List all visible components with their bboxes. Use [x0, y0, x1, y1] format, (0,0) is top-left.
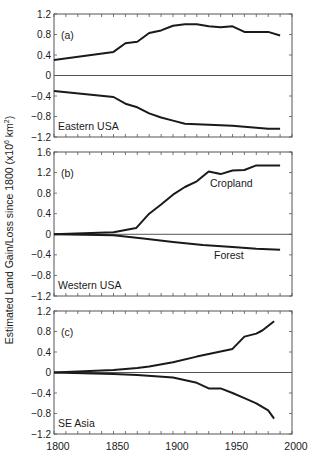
series-cropland-line: [54, 165, 280, 234]
region-label: Western USA: [58, 279, 121, 291]
y-tick-label: 0.4: [37, 208, 51, 219]
y-tick-label: −0.4: [31, 249, 51, 260]
panel-c: 1.20.80.40−0.4−0.8−1.2(c)SE Asia: [31, 306, 292, 440]
x-tick-label: 2000: [284, 440, 308, 452]
plot-frame: [54, 152, 292, 296]
y-tick-label: 0.8: [37, 326, 51, 337]
y-tick-label: 0.4: [37, 347, 51, 358]
series-forest-line: [54, 234, 280, 249]
y-tick-label: 1.6: [37, 147, 51, 158]
y-tick-label: −0.4: [31, 388, 51, 399]
x-tick-label: 1950: [225, 440, 249, 452]
y-tick-label: 0: [45, 229, 51, 240]
region-label: SE Asia: [58, 417, 95, 429]
panel-label: (b): [61, 167, 74, 179]
y-tick-label: 1.2: [37, 167, 51, 178]
cropland-annotation: Cropland: [210, 177, 253, 189]
y-tick-label: −0.4: [31, 91, 51, 102]
panels: 1.20.80.40−0.4−0.8−1.2(a)Eastern USA1.61…: [31, 9, 292, 440]
series-forest-line: [54, 373, 274, 419]
series-cropland-line: [54, 321, 274, 372]
y-tick-label: 0.8: [37, 188, 51, 199]
y-tick-label: −1.2: [31, 132, 51, 143]
forest-annotation: Forest: [214, 249, 244, 261]
x-tick-label: 1850: [106, 440, 130, 452]
panel-a: 1.20.80.40−0.4−0.8−1.2(a)Eastern USA: [31, 9, 292, 143]
y-tick-label: 1.2: [37, 306, 51, 317]
panel-label: (a): [61, 29, 74, 41]
y-tick-label: 0: [45, 70, 51, 81]
x-axis-tick-labels: 18001850190019502000: [46, 440, 308, 452]
y-tick-label: −1.2: [31, 291, 51, 302]
region-label: Eastern USA: [58, 120, 119, 132]
y-tick-label: −0.8: [31, 408, 51, 419]
y-tick-label: −0.8: [31, 270, 51, 281]
y-tick-label: 0: [45, 367, 51, 378]
land-change-figure: 1.20.80.40−0.4−0.8−1.2(a)Eastern USA1.61…: [0, 0, 313, 459]
x-tick-label: 1800: [46, 440, 70, 452]
y-tick-label: −0.8: [31, 111, 51, 122]
y-tick-label: 0.4: [37, 50, 51, 61]
y-tick-label: −1.2: [31, 429, 51, 440]
panel-label: (c): [61, 326, 73, 338]
x-tick-label: 1900: [165, 440, 189, 452]
chart-svg: 1.20.80.40−0.4−0.8−1.2(a)Eastern USA1.61…: [0, 0, 313, 459]
y-tick-label: 0.8: [37, 29, 51, 40]
y-tick-label: 1.2: [37, 9, 51, 20]
panel-b: 1.61.20.80.40−0.4−0.8−1.2(b)Western USAC…: [31, 147, 292, 302]
series-cropland-line: [54, 24, 280, 60]
y-axis-title: Estimated Land Gain/Loss since 1800 (x10…: [3, 116, 15, 344]
